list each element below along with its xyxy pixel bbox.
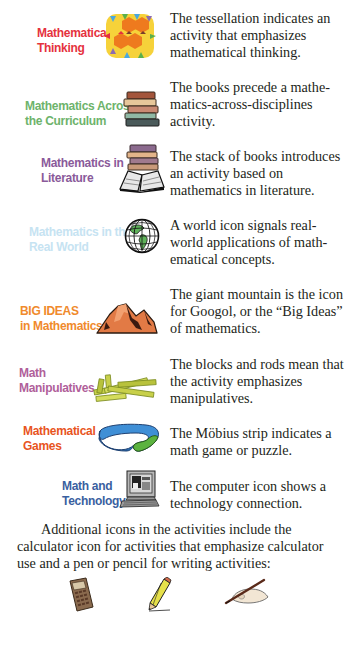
blocks-rods-icon bbox=[90, 369, 160, 403]
label-line-2: in Mathematics bbox=[20, 319, 103, 334]
entry-label: Mathematics in the Real World bbox=[29, 225, 132, 255]
label-line-1: Mathematics in the bbox=[29, 225, 132, 240]
entry-description: The computer icon shows a technology con… bbox=[170, 478, 346, 512]
entry-label: Mathematics Across the Curriculum bbox=[25, 99, 136, 129]
entry-label: Mathematics in Literature bbox=[41, 156, 124, 186]
label-line-2: Technology bbox=[62, 494, 125, 509]
entry-label: Math Manipulatives bbox=[19, 366, 94, 396]
calculator-icon bbox=[66, 577, 96, 613]
label-line-1: Mathematics in bbox=[41, 156, 124, 171]
entry-description: A world icon signals real-world applicat… bbox=[170, 217, 346, 268]
label-line-1: Mathematical bbox=[23, 424, 95, 439]
label-line-1: Math and bbox=[62, 479, 125, 494]
entry-description: The stack of books intro­duces an activi… bbox=[170, 148, 346, 199]
additional-icons-paragraph: Additional icons in the activities inclu… bbox=[17, 521, 339, 572]
entry-label: Mathematical Games bbox=[23, 424, 95, 454]
label-line-2: the Curriculum bbox=[25, 114, 136, 129]
label-line-1: Mathematics Across bbox=[25, 99, 136, 114]
label-line-2: Literature bbox=[41, 171, 124, 186]
entry-description: The tessellation indicates an activity t… bbox=[170, 10, 346, 61]
computer-icon bbox=[118, 469, 160, 509]
hand-writing-pen-icon bbox=[224, 577, 270, 607]
books-open-book-icon bbox=[118, 143, 166, 193]
pencil-icon bbox=[146, 577, 176, 613]
label-line-2: Manipulatives bbox=[19, 381, 94, 396]
mobius-strip-icon bbox=[96, 421, 162, 455]
mountain-icon bbox=[96, 300, 158, 334]
label-line-2: Games bbox=[23, 439, 95, 454]
entry-description: The giant mountain is the icon for Googo… bbox=[170, 286, 346, 337]
label-line-1: Math bbox=[19, 366, 94, 381]
entry-description: The blocks and rods mean that the activi… bbox=[170, 356, 346, 407]
label-line-1: BIG IDEAS bbox=[20, 304, 103, 319]
globe-icon bbox=[124, 218, 160, 254]
books-icon bbox=[122, 90, 162, 128]
entry-label: BIG IDEAS in Mathematics bbox=[20, 304, 103, 334]
label-line-2: Real World bbox=[29, 240, 132, 255]
entry-description: The books precede a mathe­matics-across-… bbox=[170, 79, 346, 130]
tessellation-icon bbox=[102, 10, 158, 62]
entry-description: The Möbius strip indicates a math game o… bbox=[170, 425, 346, 459]
entry-label: Math and Technology bbox=[62, 479, 125, 509]
